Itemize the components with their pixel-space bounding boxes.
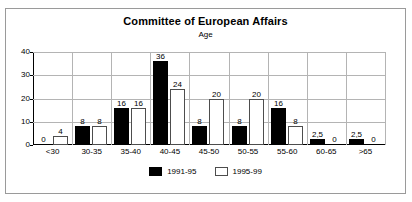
- x-tick-label: 35-40: [111, 148, 150, 156]
- chart-title: Committee of European Affairs: [6, 15, 405, 27]
- bar-group: 820: [189, 52, 228, 145]
- bar[interactable]: 16: [131, 108, 146, 145]
- bar-value-label: 4: [58, 128, 62, 136]
- bar-group: 168: [268, 52, 307, 145]
- bar-value-label: 0: [371, 136, 375, 144]
- bar[interactable]: 8: [75, 126, 90, 145]
- bar-value-label: 0: [332, 136, 336, 144]
- y-tick-label: 30: [21, 71, 30, 79]
- bar-group: 2,50: [307, 52, 346, 145]
- legend-label: 1991-95: [167, 168, 196, 176]
- y-tick-label: 0: [26, 141, 30, 149]
- bar-value-label: 2,5: [312, 131, 323, 139]
- bar[interactable]: 2,5: [349, 139, 364, 145]
- bar[interactable]: 20: [249, 99, 264, 146]
- bar-value-label: 24: [173, 81, 182, 89]
- category-separator: [385, 52, 386, 145]
- bar-value-label: 16: [134, 100, 143, 108]
- bar-value-label: 8: [80, 118, 84, 126]
- bar[interactable]: 8: [288, 126, 303, 145]
- legend-item[interactable]: 1995-99: [215, 167, 262, 176]
- legend-swatch-icon: [149, 167, 162, 176]
- legend-swatch-icon: [215, 167, 228, 176]
- chart-frame: Committee of European Affairs Age 010203…: [5, 8, 406, 194]
- bar[interactable]: 16: [271, 108, 286, 145]
- bar-value-label: 8: [97, 118, 101, 126]
- bar-value-label: 16: [117, 100, 126, 108]
- bar-group: 820: [229, 52, 268, 145]
- bar[interactable]: 8: [192, 126, 207, 145]
- bar-value-label: 0: [41, 136, 45, 144]
- y-tick-label: 40: [21, 48, 30, 56]
- bar[interactable]: 4: [53, 136, 68, 145]
- x-tick-label: 55-60: [268, 148, 307, 156]
- bar-value-label: 8: [237, 118, 241, 126]
- bar[interactable]: 2,5: [310, 139, 325, 145]
- plot-area: 010203040 0488161636248208201682,502,50: [33, 52, 385, 145]
- x-tick-label: >65: [346, 148, 385, 156]
- y-tick-label: 10: [21, 118, 30, 126]
- x-tick-label: 50-55: [229, 148, 268, 156]
- x-tick-label: 30-35: [72, 148, 111, 156]
- legend-item[interactable]: 1991-95: [149, 167, 196, 176]
- bar[interactable]: 36: [153, 61, 168, 145]
- bar[interactable]: 8: [92, 126, 107, 145]
- bar-group: 88: [72, 52, 111, 145]
- y-tick-label: 20: [21, 95, 30, 103]
- bar[interactable]: 20: [209, 99, 224, 146]
- x-tick-label: 45-50: [189, 148, 228, 156]
- bar-value-label: 36: [156, 53, 165, 61]
- bar-value-label: 8: [293, 118, 297, 126]
- bar-value-label: 8: [197, 118, 201, 126]
- legend-label: 1995-99: [233, 168, 262, 176]
- bar-group: 2,50: [346, 52, 385, 145]
- bar-value-label: 2,5: [351, 131, 362, 139]
- bar-group: 1616: [111, 52, 150, 145]
- x-tick-label: 40-45: [150, 148, 189, 156]
- bar[interactable]: 24: [170, 89, 185, 145]
- chart-legend: 1991-951995-99: [6, 167, 405, 176]
- y-tick-mark: [30, 145, 33, 146]
- x-tick-label: <30: [33, 148, 72, 156]
- bar-value-label: 20: [212, 91, 221, 99]
- bar-value-label: 16: [274, 100, 283, 108]
- bar-value-label: 20: [252, 91, 261, 99]
- x-tick-label: 60-65: [307, 148, 346, 156]
- bar[interactable]: 8: [232, 126, 247, 145]
- bar-group: 04: [33, 52, 72, 145]
- bar[interactable]: 16: [114, 108, 129, 145]
- chart-subtitle: Age: [6, 30, 405, 39]
- bar-group: 3624: [150, 52, 189, 145]
